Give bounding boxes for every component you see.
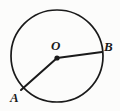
label-point-b: B: [104, 40, 113, 53]
radius-segment-oa: [21, 58, 57, 90]
label-point-a: A: [10, 91, 19, 104]
geometry-figure: O B A: [0, 0, 120, 111]
radius-segment-ob: [57, 52, 102, 58]
label-center-o: O: [51, 39, 60, 52]
center-point-dot: [54, 55, 59, 60]
